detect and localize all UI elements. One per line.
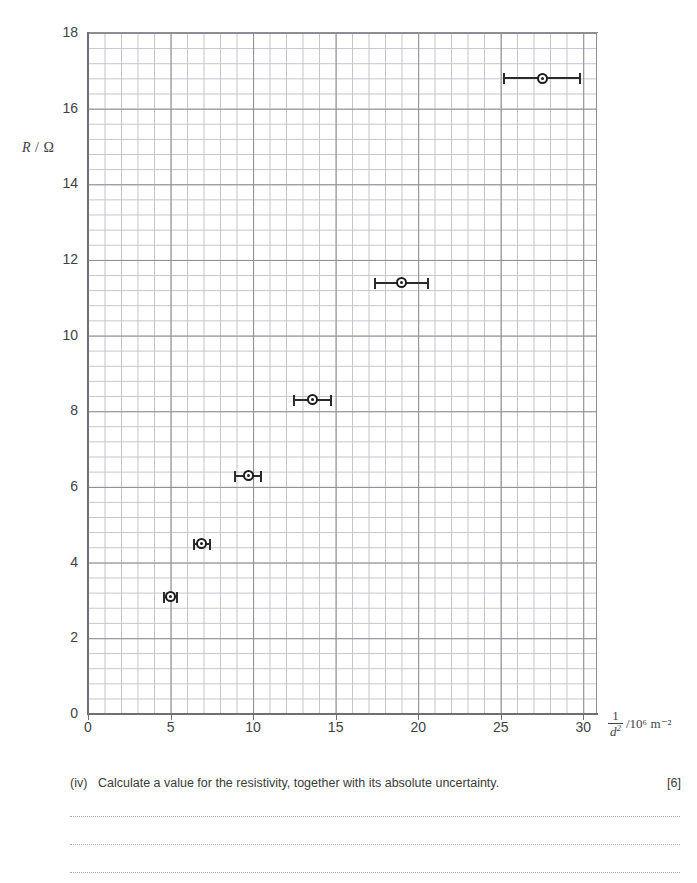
answer-line[interactable] bbox=[70, 844, 680, 846]
x-tick-mark bbox=[253, 715, 254, 720]
question-row: (iv) Calculate a value for the resistivi… bbox=[70, 776, 670, 790]
y-tick-label: 16 bbox=[38, 100, 78, 116]
x-tick-mark bbox=[418, 715, 419, 720]
x-tick-label: 30 bbox=[563, 719, 603, 735]
x-axis-unit: /10⁶ m⁻² bbox=[626, 716, 671, 732]
x-error-cap-left bbox=[234, 471, 236, 482]
x-error-cap-right bbox=[260, 471, 262, 482]
x-axis-line bbox=[87, 713, 598, 715]
x-tick-mark bbox=[88, 715, 89, 720]
x-error-cap-left bbox=[293, 395, 295, 406]
x-error-cap-right bbox=[579, 73, 581, 84]
x-tick-label: 15 bbox=[316, 719, 356, 735]
plot-grid-area bbox=[88, 33, 597, 714]
point-marker-centre-dot bbox=[541, 77, 544, 80]
y-tick-label: 14 bbox=[38, 175, 78, 191]
y-tick-label: 6 bbox=[38, 478, 78, 494]
answer-line[interactable] bbox=[70, 872, 680, 874]
y-tick-label: 4 bbox=[38, 554, 78, 570]
x-tick-mark bbox=[336, 715, 337, 720]
x-tick-mark bbox=[501, 715, 502, 720]
x-tick-label: 20 bbox=[398, 719, 438, 735]
x-tick-label: 0 bbox=[68, 719, 108, 735]
y-tick-label: 8 bbox=[38, 402, 78, 418]
x-tick-mark bbox=[171, 715, 172, 720]
x-axis-numerator: 1 bbox=[608, 709, 623, 723]
y-axis-unit: Ω bbox=[43, 140, 54, 155]
x-error-cap-right bbox=[209, 539, 211, 550]
y-axis-line bbox=[87, 32, 89, 715]
question-text: Calculate a value for the resistivity, t… bbox=[98, 776, 670, 790]
question-numeral: (iv) bbox=[70, 776, 98, 790]
plot-border-right bbox=[596, 32, 597, 715]
question-marks: [6] bbox=[667, 776, 681, 790]
answer-line[interactable] bbox=[70, 816, 680, 818]
x-error-cap-right bbox=[427, 278, 429, 289]
y-axis-symbol: R bbox=[22, 140, 31, 155]
graph-figure: R / Ω 1 d2 /10⁶ m⁻² 02468101214161805101… bbox=[0, 0, 697, 760]
x-error-cap-right bbox=[176, 592, 178, 603]
x-error-cap-left bbox=[374, 278, 376, 289]
x-tick-mark bbox=[583, 715, 584, 720]
x-axis-denominator: d2 bbox=[608, 723, 623, 739]
y-tick-label: 18 bbox=[38, 24, 78, 40]
y-axis-label: R / Ω bbox=[22, 140, 54, 156]
x-tick-label: 25 bbox=[481, 719, 521, 735]
x-axis-label: 1 d2 /10⁶ m⁻² bbox=[608, 709, 671, 739]
point-marker-centre-dot bbox=[247, 474, 250, 477]
y-axis-separator: / bbox=[31, 140, 43, 155]
x-axis-fraction: 1 d2 bbox=[608, 709, 623, 739]
question-block: (iv) Calculate a value for the resistivi… bbox=[0, 766, 697, 883]
y-tick-label: 2 bbox=[38, 629, 78, 645]
x-tick-label: 10 bbox=[233, 719, 273, 735]
x-error-cap-left bbox=[193, 539, 195, 550]
x-error-cap-right bbox=[330, 395, 332, 406]
x-error-cap-left bbox=[503, 73, 505, 84]
y-tick-label: 10 bbox=[38, 327, 78, 343]
plot-border-top bbox=[87, 32, 598, 33]
x-tick-label: 5 bbox=[151, 719, 191, 735]
y-tick-label: 12 bbox=[38, 251, 78, 267]
